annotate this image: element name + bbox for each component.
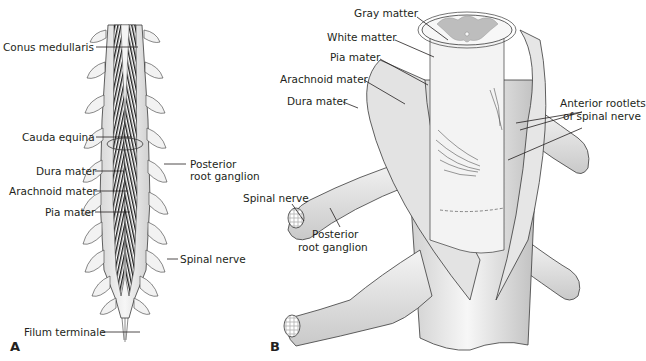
label-posterior-root-ganglion-b-line2: root ganglion [298, 241, 368, 253]
label-pia-mater-a: Pia mater [45, 206, 95, 218]
label-gray-matter: Gray matter [354, 7, 418, 19]
label-anterior-rootlets-line1: Anterior rootlets [560, 97, 646, 109]
label-cauda-equina: Cauda equina [22, 131, 95, 143]
label-conus-medullaris: Conus medullaris [3, 41, 94, 53]
label-spinal-nerve-a: Spinal nerve [180, 253, 246, 265]
label-posterior-root-ganglion-a-line2: root ganglion [190, 170, 260, 182]
label-dura-mater-b: Dura mater [287, 95, 347, 107]
label-pia-mater-b: Pia mater [330, 51, 380, 63]
panel-letter-a: A [10, 339, 20, 354]
label-dura-mater-a: Dura mater [36, 165, 96, 177]
label-filum-terminale: Filum terminale [24, 326, 106, 338]
label-arachnoid-mater-b: Arachnoid mater [280, 73, 368, 85]
label-spinal-nerve-b: Spinal nerve [243, 192, 309, 204]
label-posterior-root-ganglion-a-line1: Posterior [190, 158, 236, 170]
label-white-matter: White matter [327, 31, 397, 43]
label-anterior-rootlets-line2: of spinal nerve [563, 110, 641, 122]
label-posterior-root-ganglion-b-line1: Posterior [312, 228, 358, 240]
panel-a-cord [82, 25, 168, 342]
panel-letter-b: B [270, 339, 280, 354]
label-arachnoid-mater-a: Arachnoid mater [9, 185, 97, 197]
